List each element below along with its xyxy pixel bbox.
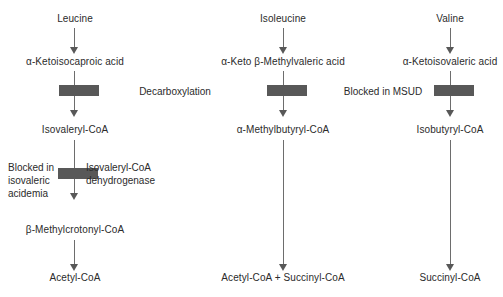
arrow-isobutyryl-coa-to-succinyl-coa bbox=[445, 140, 455, 271]
arrow-methylbutyryl-coa-to-acetyl-succinyl-coa bbox=[278, 140, 288, 271]
node-acetyl-coa-leucine: Acetyl-CoA bbox=[49, 272, 100, 283]
arrow-valine-to-ketoisovaleric bbox=[445, 28, 455, 54]
node-succinyl-coa: Succinyl-CoA bbox=[419, 272, 480, 283]
node-isovaleryl-coa: Isovaleryl-CoA bbox=[42, 124, 108, 135]
node-acetyl-coa-plus-succinyl-coa: Acetyl-CoA + Succinyl-CoA bbox=[221, 272, 344, 283]
annotation-blocked-iva-line1: Blocked in bbox=[8, 161, 54, 174]
annotation-blocked-iva-line3: acidemia bbox=[8, 187, 54, 200]
annotation-isovaleryl-coa-dehydrogenase: Isovaleryl-CoA dehydrogenase bbox=[86, 161, 155, 187]
arrow-isoleucine-to-keto-methylvaleric bbox=[278, 28, 288, 54]
pathway-diagram: Leucine α-Ketoisocaproic acid Isovaleryl… bbox=[0, 0, 503, 297]
block-bar-branched-chain-ketoacid-dehydrogenase-isoleucine bbox=[267, 85, 307, 96]
node-alpha-ketoisovaleric-acid: α-Ketoisovaleric acid bbox=[403, 56, 498, 67]
annotation-decarboxylation: Decarboxylation bbox=[139, 85, 211, 98]
annotation-blocked-iva-line2: isovaleric bbox=[8, 174, 54, 187]
node-alpha-keto-beta-methylvaleric-acid: α-Keto β-Methylvaleric acid bbox=[221, 56, 345, 67]
node-valine: Valine bbox=[436, 13, 464, 24]
annotation-enzyme-line2: dehydrogenase bbox=[86, 174, 155, 187]
node-isoleucine: Isoleucine bbox=[260, 13, 306, 24]
annotation-blocked-in-isovaleric-acidemia: Blocked in isovaleric acidemia bbox=[8, 161, 54, 200]
annotation-enzyme-line1: Isovaleryl-CoA bbox=[86, 161, 155, 174]
node-leucine: Leucine bbox=[57, 13, 93, 24]
annotation-blocked-in-msud: Blocked in MSUD bbox=[344, 85, 422, 98]
node-beta-methylcrotonyl-coa: β-Methylcrotonyl-CoA bbox=[26, 224, 124, 235]
node-alpha-methylbutyryl-coa: α-Methylbutyryl-CoA bbox=[237, 124, 330, 135]
block-bar-branched-chain-ketoacid-dehydrogenase-leucine bbox=[59, 85, 99, 96]
node-alpha-ketoisocaproic-acid: α-Ketoisocaproic acid bbox=[26, 56, 124, 67]
arrow-methylcrotonyl-coa-to-acetyl-coa bbox=[69, 240, 79, 271]
arrow-leucine-to-ketoisocaproic bbox=[69, 28, 79, 54]
block-bar-branched-chain-ketoacid-dehydrogenase-valine bbox=[434, 85, 474, 96]
node-isobutyryl-coa: Isobutyryl-CoA bbox=[417, 124, 484, 135]
